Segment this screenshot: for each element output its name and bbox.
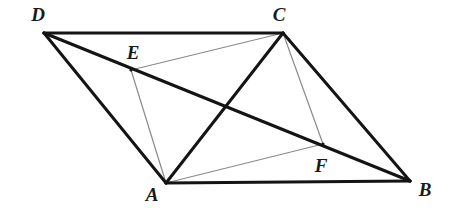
vertex-label-A: A [146, 185, 159, 204]
segment-FC [283, 33, 323, 144]
vertex-dot-B [408, 179, 411, 182]
heavy-segment-group [44, 33, 410, 183]
vertex-dot-C [281, 31, 284, 34]
vertex-label-D: D [31, 5, 45, 24]
vertex-label-B: B [419, 180, 432, 199]
vertex-dot-E [129, 68, 132, 71]
segment-AC [166, 33, 283, 183]
vertex-dot-F [321, 142, 324, 145]
geometry-canvas [0, 0, 451, 208]
segment-DA [44, 33, 166, 183]
segment-AF [166, 144, 323, 183]
vertex-label-C: C [273, 5, 286, 24]
vertex-dot-A [164, 181, 167, 184]
vertex-label-F: F [315, 156, 328, 175]
segment-AB [166, 181, 410, 183]
vertex-dot-D [42, 31, 45, 34]
segment-CB [283, 33, 410, 181]
geometry-figure: DCEFAB [0, 0, 451, 208]
segment-EA [131, 70, 166, 183]
vertex-label-E: E [127, 43, 140, 62]
